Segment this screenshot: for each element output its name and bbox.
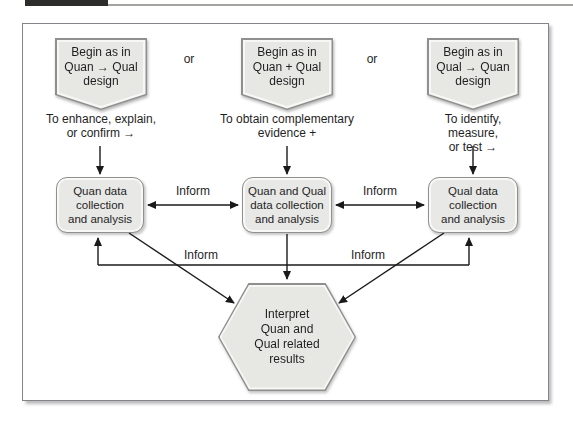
inform-label-left-middle: Inform	[176, 184, 210, 198]
caption-identify-measure: To identify, measure, or test →	[423, 112, 523, 154]
box-qual-data-collection: Qual data collection and analysis	[428, 177, 518, 233]
banner-qual-then-quan-text: Begin as in Qual → Quan design	[427, 38, 519, 96]
or-label-right: or	[367, 52, 378, 66]
banner-quan-plus-qual: Begin as in Quan + Qual design	[241, 38, 333, 110]
header-bar	[25, 0, 108, 6]
or-label-left: or	[184, 52, 195, 66]
banner-quan-plus-qual-text: Begin as in Quan + Qual design	[241, 38, 333, 96]
box-quan-and-qual-data-collection: Quan and Qual data collection and analys…	[242, 177, 332, 233]
inform-label-middle-right: Inform	[363, 184, 397, 198]
banner-quan-then-qual-text: Begin as in Quan → Qual design	[55, 38, 147, 96]
box-quan-data-collection: Quan data collection and analysis	[56, 177, 144, 233]
caption-complementary-evidence: To obtain complementary evidence +	[220, 112, 354, 140]
banner-qual-then-quan: Begin as in Qual → Quan design	[427, 38, 519, 110]
banner-quan-then-qual: Begin as in Quan → Qual design	[55, 38, 147, 110]
hexagon-interpret-results: Interpret Quan and Qual related results	[218, 283, 356, 391]
inform-label-feedback-right: Inform	[351, 248, 385, 262]
caption-enhance-explain: To enhance, explain, or confirm →	[46, 112, 156, 140]
page: Begin as in Quan → Qual design Begin as …	[0, 0, 573, 429]
hexagon-interpret-results-text: Interpret Quan and Qual related results	[218, 283, 356, 391]
inform-label-feedback-left: Inform	[184, 248, 218, 262]
